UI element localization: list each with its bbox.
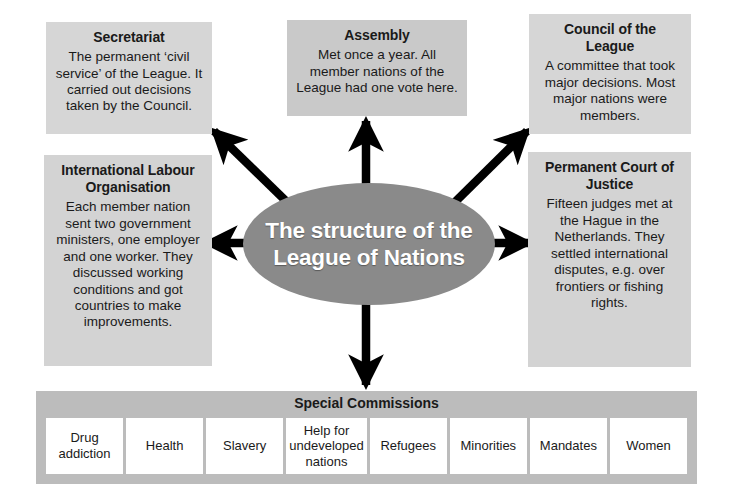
diagram-canvas: Secretariat The permanent ‘civil service… (0, 0, 730, 504)
special-commissions-title: Special Commissions (36, 395, 697, 411)
commission-cell: Help for undeveloped nations (286, 418, 366, 474)
center-node-label-line1: The structure of the (265, 218, 472, 243)
box-ilo-body: Each member nation sent two government m… (53, 199, 203, 331)
commission-cell: Health (126, 418, 203, 474)
box-council-body: A committee that took major decisions. M… (538, 58, 682, 124)
commission-cell: Minorities (450, 418, 527, 474)
center-node-label: The structure of the League of Nations (265, 217, 472, 272)
box-assembly-body: Met once a year. All member nations of t… (296, 47, 458, 96)
commission-cell: Slavery (206, 418, 283, 474)
center-node-league-of-nations: The structure of the League of Nations (243, 183, 495, 305)
commission-cell: Women (610, 418, 687, 474)
arrow-to-secretariat (214, 131, 289, 204)
special-commissions-cells: Drug addiction Health Slavery Help for u… (46, 418, 687, 474)
box-assembly-title: Assembly (296, 27, 458, 44)
commission-cell: Drug addiction (46, 418, 123, 474)
box-secretariat: Secretariat The permanent ‘civil service… (46, 22, 212, 134)
box-international-labour-organisation: International Labour Organisation Each m… (44, 155, 212, 366)
box-permanent-court-of-justice: Permanent Court of Justice Fifteen judge… (528, 152, 691, 367)
box-pcj-body: Fifteen judges met at the Hague in the N… (537, 196, 682, 311)
box-assembly: Assembly Met once a year. All member nat… (287, 20, 467, 116)
center-node-label-line2: League of Nations (273, 245, 465, 270)
commission-cell: Mandates (530, 418, 607, 474)
box-council: Council of the League A committee that t… (529, 14, 691, 134)
box-council-title: Council of the League (538, 21, 682, 55)
box-pcj-title: Permanent Court of Justice (537, 159, 682, 193)
special-commissions-panel: Special Commissions Drug addiction Healt… (36, 391, 697, 484)
arrow-to-council (452, 131, 527, 205)
commission-cell: Refugees (370, 418, 447, 474)
box-secretariat-body: The permanent ‘civil service’ of the Lea… (55, 49, 203, 115)
box-secretariat-title: Secretariat (55, 29, 203, 46)
box-ilo-title: International Labour Organisation (53, 162, 203, 196)
